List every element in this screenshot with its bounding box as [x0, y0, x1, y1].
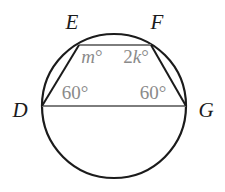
- vertex-label-G: G: [198, 100, 213, 121]
- angle-variable-k: k: [133, 46, 141, 67]
- vertex-label-D: D: [12, 100, 27, 121]
- vertex-label-E: E: [66, 12, 79, 33]
- vertex-label-F: F: [151, 12, 164, 33]
- angle-variable-m: m: [81, 46, 95, 67]
- angle-label-D: 60°: [62, 83, 89, 102]
- circle-geometry-figure: D E F G m° 2k° 60° 60°: [0, 0, 225, 192]
- angle-label-F: 2k°: [123, 47, 149, 66]
- angle-degree-symbol-E: °: [95, 46, 103, 67]
- geometry-canvas: [0, 0, 225, 192]
- angle-label-E: m°: [81, 47, 102, 66]
- angle-label-G: 60°: [140, 83, 167, 102]
- angle-coefficient-2: 2: [123, 46, 133, 67]
- angle-degree-symbol-F: °: [141, 46, 149, 67]
